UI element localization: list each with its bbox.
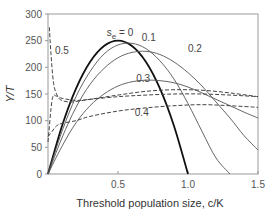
x-axis-label: Threshold population size, c/K [76,197,224,209]
x-tick-label: 0.5 [111,179,125,190]
x-tick-label: 1.5 [251,179,265,190]
curve-label: 0.3 [136,73,150,84]
y-tick-label: 200 [25,62,42,73]
y-tick-label: 0 [36,169,42,180]
y-tick-label: 250 [25,35,42,46]
x-tick-label: 1.0 [181,179,195,190]
curve-label: 0.5 [55,45,69,56]
chart: 050100150200250300 0.51.01.5 se = 00.10.… [0,0,273,216]
curve-label: se = 0 [107,27,134,41]
y-tick-label: 50 [31,142,43,153]
y-tick-label: 150 [25,89,42,100]
x-axis-label-text: Threshold population size, c/K [76,197,224,209]
series-line-0-3-solid [48,80,258,174]
series-line-s-e-0-solid-thick [48,41,188,174]
series-line-0-2-solid [48,51,258,174]
series-line-0-4-dashed [48,105,258,137]
y-tick-label: 100 [25,115,42,126]
curve-label: 0.2 [188,43,202,54]
y-axis-label: Y/T [4,84,16,102]
curve-label: 0.4 [135,107,149,118]
curve-label: 0.1 [142,32,156,43]
y-tick-label: 300 [25,9,42,20]
